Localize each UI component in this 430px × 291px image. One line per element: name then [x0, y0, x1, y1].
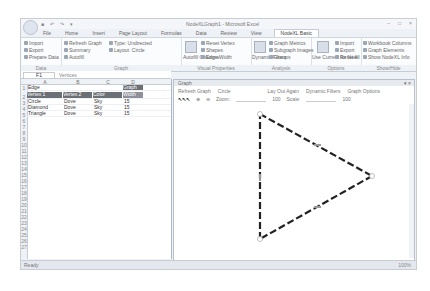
- cell-color[interactable]: Sky: [94, 99, 123, 104]
- zoom-in-icon[interactable]: ⊕: [196, 96, 200, 102]
- tab-review[interactable]: Review: [218, 30, 238, 36]
- zoom-out-icon[interactable]: ⊖: [206, 96, 210, 102]
- reset-all-button[interactable]: Reset All: [335, 54, 360, 60]
- graph-type-select[interactable]: Type: Undirected: [109, 40, 152, 46]
- show-nodexl-info-button[interactable]: Show NodeXL Info: [363, 54, 410, 60]
- row-number[interactable]: 27: [21, 244, 27, 250]
- table-title-edge[interactable]: Edge: [28, 85, 64, 90]
- use-current-icon[interactable]: [317, 41, 329, 53]
- tab-data[interactable]: Data: [194, 30, 209, 36]
- cell-vertex-1[interactable]: Diamond: [28, 105, 63, 110]
- options-export-button[interactable]: Export: [335, 47, 354, 53]
- graph-canvas[interactable]: [176, 104, 406, 258]
- reset-vertex-button[interactable]: Reset Vertex: [201, 40, 235, 46]
- summary-button[interactable]: Summary: [64, 47, 90, 53]
- tab-view[interactable]: View: [249, 30, 264, 36]
- autofill-button[interactable]: Autofill: [64, 54, 84, 60]
- dynamic-filters-icon[interactable]: [254, 41, 266, 53]
- cell-vertex-1[interactable]: Triangle: [28, 111, 63, 116]
- cell-vertex-1[interactable]: Circle: [28, 99, 63, 104]
- shapes-icon: [201, 48, 205, 52]
- status-text: Ready: [24, 262, 38, 268]
- tab-formulas[interactable]: Formulas: [159, 30, 184, 36]
- graph-metrics-button[interactable]: Graph Metrics: [269, 40, 305, 46]
- tab-nodexl-basic[interactable]: NodeXL Basic: [274, 29, 320, 37]
- name-box[interactable]: F1: [23, 72, 55, 79]
- header-vertex-1[interactable]: Vertex 1: [27, 92, 62, 98]
- graph-scrollbar[interactable]: [409, 104, 414, 258]
- options-import-button[interactable]: Import: [335, 40, 354, 46]
- formula-input[interactable]: Vertices: [59, 72, 77, 78]
- options-export-icon: [335, 48, 339, 52]
- shapes-button[interactable]: Shapes: [201, 47, 223, 53]
- restore-icon[interactable]: □: [398, 20, 401, 26]
- save-icon[interactable]: ■: [41, 21, 44, 27]
- groups-button[interactable]: Groups: [269, 54, 290, 60]
- scale-slider[interactable]: [306, 96, 336, 102]
- group-label-show-hide: Show/Hide: [361, 65, 416, 71]
- group-data: Import Export Prepare Data Data: [21, 38, 62, 71]
- ribbon: Import Export Prepare Data Data Refresh …: [21, 37, 416, 72]
- table-title-graph[interactable]: Graph: [123, 85, 143, 90]
- refresh-graph-pane-button[interactable]: Refresh Graph: [178, 88, 211, 94]
- tab-page-layout[interactable]: Page Layout: [117, 30, 149, 36]
- graph-options-button[interactable]: Graph Options: [347, 88, 380, 94]
- header-width[interactable]: Width: [123, 92, 143, 98]
- cell-vertex-2[interactable]: Dove: [64, 111, 93, 116]
- header-color[interactable]: Color: [93, 92, 122, 98]
- refresh-graph-button[interactable]: Refresh Graph: [64, 40, 102, 46]
- tab-file[interactable]: File: [41, 30, 53, 36]
- edge-label: [314, 144, 321, 146]
- prepare-data-icon: [24, 55, 28, 59]
- refresh-icon: [64, 41, 68, 45]
- zoom-value[interactable]: 100: [272, 96, 280, 102]
- reset-icon: [201, 41, 205, 45]
- dynamic-filters-pane-button[interactable]: Dynamic Filters: [306, 88, 340, 94]
- close-icon[interactable]: ×: [409, 20, 412, 26]
- cell-vertex-2[interactable]: Dove: [64, 99, 93, 104]
- formula-bar: F1 Vertices: [21, 71, 171, 79]
- cell-color[interactable]: Sky: [94, 111, 123, 116]
- graph-toolbar-2: ↖↖↖ ⊕ ⊖ Zoom: 100 Scale: 100: [178, 96, 351, 102]
- zoom-slider[interactable]: [236, 96, 266, 102]
- export-icon: [24, 48, 28, 52]
- subgraph-icon: [269, 48, 273, 52]
- customize-qat-icon[interactable]: ▾: [70, 21, 73, 27]
- cell-width[interactable]: 15: [124, 99, 144, 104]
- select-tool-icon[interactable]: ↖↖↖: [178, 96, 190, 102]
- lay-out-again-button[interactable]: Lay Out Again: [268, 88, 299, 94]
- redo-icon[interactable]: ↷: [60, 21, 64, 27]
- cell-color[interactable]: Sky: [94, 105, 123, 110]
- zoom-level[interactable]: 100%: [398, 262, 411, 268]
- options-import-icon: [335, 41, 339, 45]
- table-row: Triangle Dove Sky 15: [27, 111, 171, 117]
- minimize-icon[interactable]: –: [387, 20, 390, 26]
- layout-dropdown[interactable]: Circle: [218, 88, 231, 94]
- office-button[interactable]: [23, 20, 38, 35]
- graph-edges: [260, 114, 372, 239]
- spreadsheet: A B C D 1 2 3 4 5 6 7 8 9 10 11 12 13 14…: [21, 79, 172, 259]
- group-label-options: Options: [311, 65, 361, 71]
- header-vertex-2[interactable]: Vertex 2: [63, 92, 92, 98]
- prepare-data-button[interactable]: Prepare Data: [24, 54, 59, 60]
- autofill-columns-icon[interactable]: [185, 41, 197, 53]
- cell-width[interactable]: 15: [124, 105, 144, 110]
- scale-value[interactable]: 100: [342, 96, 350, 102]
- reset-all-icon: [335, 55, 339, 59]
- tab-home[interactable]: Home: [63, 30, 80, 36]
- export-button[interactable]: Export: [24, 47, 43, 53]
- cell-width[interactable]: 15: [124, 111, 144, 116]
- graph-elements-button[interactable]: Graph Elements: [363, 47, 404, 53]
- import-button[interactable]: Import: [24, 40, 43, 46]
- groups-icon: [269, 55, 273, 59]
- pane-close-icon[interactable]: ▾ ×: [404, 80, 411, 86]
- graph-pane-header: Graph ▾ ×: [174, 80, 414, 86]
- edge-width-button[interactable]: Edge Width: [201, 54, 232, 60]
- layout-select[interactable]: Layout: Circle: [109, 47, 145, 53]
- cell-vertex-2[interactable]: Dove: [64, 105, 93, 110]
- undo-icon[interactable]: ↶: [50, 21, 54, 27]
- subgraph-images-button[interactable]: Subgraph Images: [269, 47, 313, 53]
- tab-insert[interactable]: Insert: [90, 30, 107, 36]
- group-graph: Refresh Graph Summary Autofill Type: Und…: [61, 38, 182, 71]
- workbook-columns-button[interactable]: Workbook Columns: [363, 40, 412, 46]
